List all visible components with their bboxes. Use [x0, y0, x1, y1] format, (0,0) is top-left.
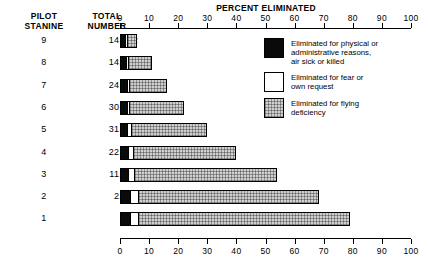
x-tick-bot-50: [266, 239, 267, 244]
x-tick-bot-70: [324, 239, 325, 244]
x-tick-label-bot-40: 40: [231, 246, 241, 256]
legend-label-physical: Eliminated for physical or administrativ…: [291, 38, 378, 66]
bar-segment-white-stanine-2: [130, 191, 140, 203]
x-tick-top-10: [149, 23, 150, 28]
legend-item-physical: Eliminated for physical or administrativ…: [264, 38, 426, 66]
x-tick-label-top-10: 10: [144, 13, 154, 23]
legend-swatch-fear: [264, 72, 284, 92]
x-tick-bot-100: [411, 239, 412, 244]
x-tick-label-top-40: 40: [231, 13, 241, 23]
x-tick-top-60: [295, 23, 296, 28]
x-tick-label-bot-60: 60: [290, 246, 300, 256]
x-tick-label-bot-20: 20: [173, 246, 183, 256]
x-tick-top-50: [266, 23, 267, 28]
bar-segment-white-stanine-3: [128, 169, 135, 181]
x-tick-label-top-30: 30: [202, 13, 212, 23]
x-tick-top-20: [178, 23, 179, 28]
x-tick-label-bot-30: 30: [202, 246, 212, 256]
bar-segment-white-stanine-1: [130, 213, 140, 225]
bar-segment-hatch-stanine-5: [132, 124, 206, 136]
chart-legend: Eliminated for physical or administrativ…: [264, 38, 426, 124]
row-label-stanine-2: 2: [8, 191, 80, 201]
x-tick-bot-0: [120, 239, 121, 244]
x-tick-label-bot-90: 90: [377, 246, 387, 256]
x-tick-bot-80: [353, 239, 354, 244]
x-tick-top-80: [353, 23, 354, 28]
legend-swatch-flying: [264, 98, 284, 118]
bar-segment-black-stanine-4: [121, 147, 128, 159]
stacked-bar-stanine-5: [120, 123, 207, 137]
row-label-stanine-4: 4: [8, 147, 80, 157]
row-label-stanine-1: 1: [8, 213, 80, 223]
stacked-bar-stanine-1: [120, 212, 350, 226]
legend-item-fear: Eliminated for fear or own request: [264, 72, 426, 92]
row-label-stanine-7: 7: [8, 80, 80, 90]
x-tick-label-bot-80: 80: [348, 246, 358, 256]
bar-segment-hatch-stanine-1: [139, 213, 348, 225]
x-tick-label-bot-0: 0: [117, 246, 122, 256]
x-tick-label-top-80: 80: [348, 13, 358, 23]
row-label-stanine-9: 9: [8, 35, 80, 45]
bar-segment-hatch-stanine-6: [130, 102, 183, 114]
x-tick-top-100: [411, 23, 412, 28]
chart-axis-title: PERCENT ELIMINATED: [120, 3, 412, 13]
stacked-bar-stanine-4: [120, 146, 236, 160]
row-label-stanine-8: 8: [8, 57, 80, 67]
legend-item-flying: Eliminated for flying deficiency: [264, 98, 426, 118]
bar-segment-black-stanine-3: [121, 169, 128, 181]
pilot-stanine-elimination-chart: PILOT STANINE TOTAL NUMBER PERCENT ELIMI…: [0, 0, 428, 264]
x-axis-top: [120, 28, 411, 29]
x-tick-label-top-70: 70: [319, 13, 329, 23]
x-tick-top-90: [382, 23, 383, 28]
x-tick-top-0: [120, 23, 121, 28]
row-label-stanine-3: 3: [8, 169, 80, 179]
x-tick-label-bot-50: 50: [260, 246, 270, 256]
x-tick-bot-40: [236, 239, 237, 244]
x-tick-bot-90: [382, 239, 383, 244]
x-tick-bot-10: [149, 239, 150, 244]
x-tick-label-top-90: 90: [377, 13, 387, 23]
legend-label-flying: Eliminated for flying deficiency: [291, 98, 359, 117]
x-tick-label-bot-10: 10: [144, 246, 154, 256]
bar-segment-hatch-stanine-9: [128, 35, 137, 47]
bar-segment-black-stanine-2: [121, 191, 130, 203]
stacked-bar-stanine-2: [120, 190, 319, 204]
x-tick-bot-30: [207, 239, 208, 244]
x-tick-bot-20: [178, 239, 179, 244]
row-label-stanine-5: 5: [8, 124, 80, 134]
bar-segment-hatch-stanine-7: [130, 80, 166, 92]
x-tick-label-top-20: 20: [173, 13, 183, 23]
x-tick-label-top-100: 100: [403, 13, 418, 23]
stacked-bar-stanine-6: [120, 101, 184, 115]
legend-swatch-physical: [264, 38, 284, 58]
x-tick-label-top-60: 60: [290, 13, 300, 23]
x-tick-top-70: [324, 23, 325, 28]
stacked-bar-stanine-8: [120, 56, 152, 70]
bar-segment-hatch-stanine-2: [139, 191, 318, 203]
bar-segment-hatch-stanine-4: [134, 147, 236, 159]
x-tick-label-top-50: 50: [260, 13, 270, 23]
legend-label-fear: Eliminated for fear or own request: [291, 72, 363, 91]
stacked-bar-stanine-3: [120, 168, 277, 182]
bar-segment-hatch-stanine-3: [135, 169, 276, 181]
column-header-pilot-stanine: PILOT STANINE: [8, 12, 80, 31]
bar-segment-hatch-stanine-8: [129, 57, 151, 69]
row-label-stanine-6: 6: [8, 102, 80, 112]
stacked-bar-stanine-9: [120, 34, 137, 48]
bar-segment-black-stanine-1: [121, 213, 130, 225]
x-tick-label-bot-70: 70: [319, 246, 329, 256]
x-tick-bot-60: [295, 239, 296, 244]
x-tick-label-top-0: 0: [117, 13, 122, 23]
x-tick-top-40: [236, 23, 237, 28]
stacked-bar-stanine-7: [120, 79, 167, 93]
x-tick-label-bot-100: 100: [403, 246, 418, 256]
x-tick-top-30: [207, 23, 208, 28]
